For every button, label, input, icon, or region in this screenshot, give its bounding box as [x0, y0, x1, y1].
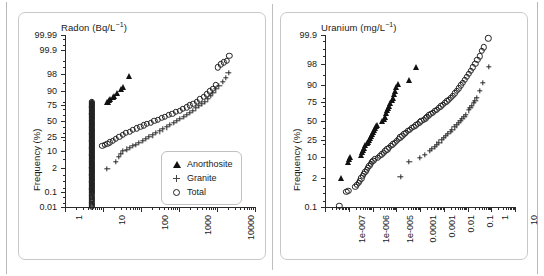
- x-minor-tick: [126, 208, 127, 210]
- y-minor-tick: [323, 106, 325, 107]
- x-minor-tick: [244, 208, 245, 210]
- data-point-granite: [486, 64, 491, 69]
- y-minor-tick: [323, 167, 325, 168]
- panel-uranium: Uranium (mg/L−1) Frequency (%) 99.998907…: [280, 12, 528, 260]
- x-minor-tick: [76, 208, 77, 210]
- x-tick-label: 10: [117, 215, 127, 225]
- x-tick: [396, 208, 397, 212]
- x-minor-tick: [365, 208, 366, 210]
- x-minor-tick: [506, 208, 507, 210]
- x-minor-tick: [249, 208, 250, 210]
- plus-icon: [169, 175, 184, 182]
- legend-item-total: Total: [169, 185, 233, 199]
- data-point-total: [476, 53, 482, 59]
- y-tick: [61, 105, 65, 106]
- y-minor-tick: [63, 45, 65, 46]
- panel-radon: Radon (Bq/L−1) Frequency (%) 99.9999.998…: [18, 12, 266, 260]
- x-minor-tick: [413, 208, 414, 210]
- page-rule-left: [6, 2, 7, 274]
- y-minor-tick: [63, 159, 65, 160]
- y-tick-label: 10: [47, 146, 57, 156]
- figure-root: Radon (Bq/L−1) Frequency (%) 99.9999.998…: [0, 0, 544, 276]
- y-minor-tick: [323, 75, 325, 76]
- x-minor-tick: [235, 208, 236, 210]
- y-minor-tick: [323, 136, 325, 137]
- x-minor-tick: [101, 208, 102, 210]
- x-tick-label: 1e-005: [405, 215, 415, 243]
- y-tick-label: 25: [47, 132, 57, 142]
- x-minor-tick: [130, 208, 131, 210]
- x-tick: [444, 208, 445, 212]
- x-minor-tick: [139, 208, 140, 210]
- x-tick-label: 0.1: [484, 215, 494, 228]
- y-tick-label: 2: [312, 173, 317, 183]
- y-tick-label: 99.9: [299, 30, 317, 40]
- y-minor-tick: [63, 39, 65, 40]
- data-point-anorthosite: [338, 175, 344, 181]
- y-tick-label: 90: [307, 80, 317, 90]
- y-minor-tick: [323, 41, 325, 42]
- x-minor-tick: [97, 208, 98, 210]
- x-minor-tick: [441, 208, 442, 210]
- y-tick-label: 0.1: [44, 187, 57, 197]
- y-minor-tick: [323, 49, 325, 50]
- y-minor-tick: [63, 197, 65, 198]
- y-minor-tick: [323, 144, 325, 145]
- panel-divider: [272, 4, 273, 270]
- x-tick: [515, 208, 516, 212]
- x-minor-tick: [458, 208, 459, 210]
- x-minor-tick: [486, 208, 487, 210]
- y-axis-line: [325, 35, 326, 208]
- x-minor-tick: [411, 208, 412, 210]
- x-minor-tick: [498, 208, 499, 210]
- x-minor-tick: [197, 208, 198, 210]
- x-tick: [325, 208, 326, 212]
- x-minor-tick: [460, 208, 461, 210]
- x-tick-label: 10: [529, 215, 539, 225]
- x-minor-tick: [387, 208, 388, 210]
- open-circle-icon: [169, 189, 184, 196]
- y-tick-label: 90: [47, 86, 57, 96]
- data-point-granite: [398, 174, 403, 179]
- y-tick-label: 98: [307, 59, 317, 69]
- x-tick: [65, 208, 66, 212]
- x-minor-tick: [482, 208, 483, 210]
- y-minor-tick: [323, 128, 325, 129]
- x-minor-tick: [206, 208, 207, 210]
- x-tick: [491, 208, 492, 212]
- legend-item-granite: Granite: [169, 171, 233, 185]
- y-tick: [61, 74, 65, 75]
- data-point-granite: [477, 88, 482, 93]
- x-tick: [468, 208, 469, 212]
- x-minor-tick: [367, 208, 368, 210]
- y-tick-label: 98: [47, 69, 57, 79]
- x-minor-tick: [371, 208, 372, 210]
- x-minor-tick: [133, 208, 134, 210]
- x-minor-tick: [389, 208, 390, 210]
- y-minor-tick: [323, 56, 325, 57]
- data-point-granite: [480, 80, 485, 85]
- y-tick: [61, 137, 65, 138]
- x-tick: [103, 208, 104, 212]
- x-minor-tick: [403, 208, 404, 210]
- x-minor-tick: [121, 208, 122, 210]
- y-tick-label: 75: [307, 97, 317, 107]
- filled-triangle-icon: [169, 161, 184, 168]
- x-tick: [217, 208, 218, 212]
- data-point-granite: [105, 166, 110, 171]
- x-minor-tick: [503, 208, 504, 210]
- x-minor-tick: [360, 208, 361, 210]
- x-minor-tick: [202, 208, 203, 210]
- x-minor-tick: [228, 208, 229, 210]
- y-minor-tick: [63, 83, 65, 84]
- data-point-granite: [226, 70, 231, 75]
- x-minor-tick: [159, 208, 160, 210]
- x-tick: [179, 208, 180, 212]
- y-minor-tick: [63, 115, 65, 116]
- y-minor-tick: [323, 98, 325, 99]
- x-tick-label: 10000: [246, 215, 256, 240]
- x-minor-tick: [171, 208, 172, 210]
- x-minor-tick: [451, 208, 452, 210]
- y-minor-tick: [323, 193, 325, 194]
- x-tick: [373, 208, 374, 212]
